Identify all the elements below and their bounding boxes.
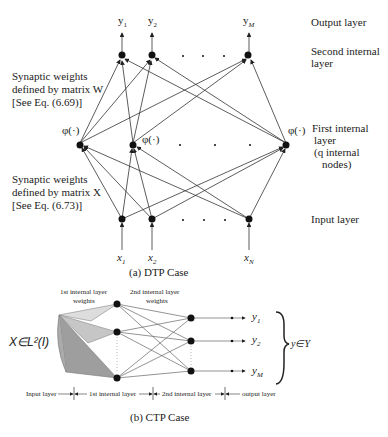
dtp-caption: (a) DTP Case: [129, 266, 188, 279]
weights-x-line2: defined by matrix X: [12, 186, 101, 199]
label-sub: 2: [154, 21, 158, 29]
label-sub: 1: [124, 21, 128, 29]
output-label-y2: y2: [148, 14, 157, 30]
ctp-bottom-input-layer: Input layer: [26, 390, 57, 399]
weights-w-line2: defined by matrix W: [12, 83, 103, 96]
weights-x-line3: [See Eq. (6.73)]: [12, 199, 82, 212]
phi-label-1: φ(·): [62, 124, 79, 137]
label-sub: M: [249, 21, 255, 29]
first-internal-label-4: nodes): [322, 158, 351, 171]
phi-label-3: φ(·): [288, 124, 305, 137]
output-layer-label: Output layer: [311, 16, 366, 29]
second-internal-label-2: layer: [311, 57, 333, 70]
label-sub: 2: [257, 340, 261, 348]
ctp-weights2-line2: weights: [146, 297, 168, 306]
ctp-caption: (b) CTP Case: [130, 411, 189, 424]
label-sub: 1: [257, 317, 261, 325]
label-sub: 1: [122, 258, 126, 266]
ctp-bottom-2nd-internal: 2nd internal layer: [162, 390, 211, 399]
ctp-output-y1: y1: [252, 310, 260, 326]
ctp-weights2-line1: 2nd internal layer: [130, 288, 179, 297]
phi-label-2: φ(·): [142, 133, 159, 146]
input-label-x2: x2: [148, 251, 156, 267]
label-sub: N: [249, 258, 254, 266]
input-layer-label: Input layer: [311, 213, 359, 226]
input-label-xN: xN: [244, 251, 254, 267]
ctp-output-set: y∈Y: [291, 337, 310, 350]
ctp-bottom-1st-internal: 1st internal layer: [89, 390, 136, 399]
weights-w-line1: Synaptic weights: [12, 70, 87, 83]
weights-x-line1: Synaptic weights: [12, 173, 87, 186]
ctp-output-yM: yM: [252, 364, 263, 380]
label-sub: M: [257, 371, 263, 379]
label-sub: 2: [153, 258, 157, 266]
ctp-weights1-line2: weights: [73, 297, 95, 306]
output-label-y1: y1: [118, 14, 127, 30]
ctp-weights1-line1: 1st internal layer: [60, 288, 107, 297]
weights-w-line3: [See Eq. (6.69)]: [12, 96, 82, 109]
output-label-yM: yM: [243, 14, 254, 30]
ctp-output-y2: y2: [252, 333, 260, 349]
ctp-input-label: X∈L²(I): [9, 336, 49, 349]
ctp-bottom-output-layer: output layer: [242, 390, 276, 399]
input-label-x1: x1: [117, 251, 125, 267]
